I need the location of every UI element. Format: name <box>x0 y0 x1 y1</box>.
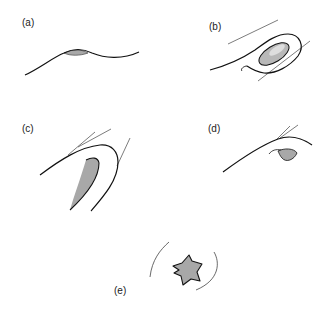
panel-d-contour <box>223 137 312 172</box>
panel-a-drawing <box>25 50 139 75</box>
panel-e-left-arc <box>150 242 169 277</box>
panel-c-shaded-wedge <box>70 158 99 210</box>
panel-e-star-blob <box>173 255 202 285</box>
panel-d-shaded-almond <box>278 149 297 161</box>
panel-c-drawing <box>40 129 130 211</box>
panel-e-right-arc <box>196 252 217 290</box>
panel-b-drawing <box>210 20 310 81</box>
panel-b-contour <box>210 34 301 73</box>
panel-e-drawing <box>150 242 217 290</box>
panel-b-contour-hook <box>241 66 247 71</box>
diagram-drawing <box>0 0 336 309</box>
panel-d-drawing <box>223 125 312 172</box>
diagram-figure: (a) (b) (c) (d) (e) <box>0 0 336 309</box>
panel-c-tangent-1 <box>68 132 95 155</box>
panel-b-tangent-upper <box>228 20 278 44</box>
panel-c-tangent-2 <box>78 129 111 147</box>
panel-c-tangent-3 <box>117 138 130 166</box>
